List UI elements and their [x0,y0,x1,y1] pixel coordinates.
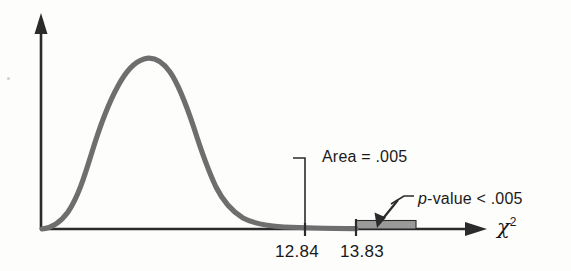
pvalue-remainder: -value < .005 [427,190,523,207]
y-axis-arrowhead [35,13,48,34]
x-axis-arrowhead [465,222,487,236]
x-tick-label-13-83: 13.83 [340,243,384,260]
chi-symbol: χ [497,215,510,239]
scan-speck [7,77,10,80]
pvalue-italic-p: p [418,190,427,207]
area-annotation-label: Area = .005 [322,149,407,165]
shaded-tail-region [356,221,416,230]
chi-square-figure: Area = .005 p-value < .005 12.84 13.83 χ… [0,0,571,271]
x-axis-title: χ2 [497,216,516,238]
x-tick-label-12-84: 12.84 [275,243,319,260]
density-curve [42,58,356,229]
chi-square-plot-svg [0,0,571,271]
chi-exponent: 2 [510,215,517,229]
area-leader-line [293,158,305,229]
y-axis [35,13,48,229]
pvalue-annotation-label: p-value < .005 [418,191,523,207]
